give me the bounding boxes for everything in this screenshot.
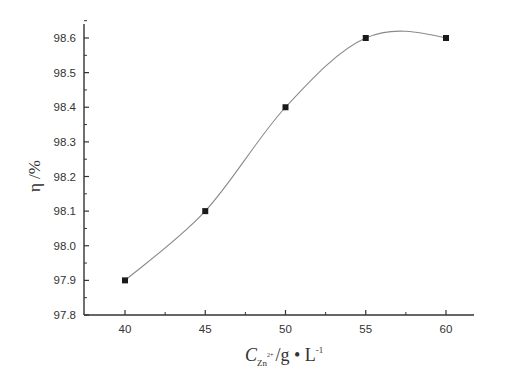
- x-axis-ticks: 4045505560: [119, 310, 453, 335]
- y-tick-label: 98.4: [54, 101, 77, 113]
- line-chart: 97.897.998.098.198.298.398.498.598.6 404…: [0, 0, 506, 387]
- x-tick-label: 55: [359, 323, 372, 335]
- y-tick-label: 98.1: [54, 205, 76, 217]
- data-point-marker: [283, 104, 289, 110]
- data-curve: [125, 31, 446, 280]
- data-markers: [122, 35, 449, 283]
- y-tick-label: 98.3: [54, 136, 76, 148]
- data-point-marker: [122, 277, 128, 283]
- y-tick-label: 97.9: [54, 274, 76, 286]
- data-point-marker: [363, 35, 369, 41]
- x-tick-label: 40: [119, 323, 132, 335]
- y-tick-label: 98.5: [54, 67, 76, 79]
- y-tick-label: 98.0: [54, 240, 76, 252]
- y-tick-label: 98.6: [54, 32, 76, 44]
- y-tick-label: 97.8: [54, 309, 76, 321]
- data-point-marker: [443, 35, 449, 41]
- x-tick-label: 45: [199, 323, 212, 335]
- x-tick-label: 50: [279, 323, 292, 335]
- data-point-marker: [202, 208, 208, 214]
- y-axis-title: η /%: [25, 160, 44, 192]
- x-axis-title: CZn2+/g • L-1: [245, 345, 323, 368]
- y-tick-label: 98.2: [54, 171, 76, 183]
- x-tick-label: 60: [440, 323, 453, 335]
- axes: [84, 24, 474, 315]
